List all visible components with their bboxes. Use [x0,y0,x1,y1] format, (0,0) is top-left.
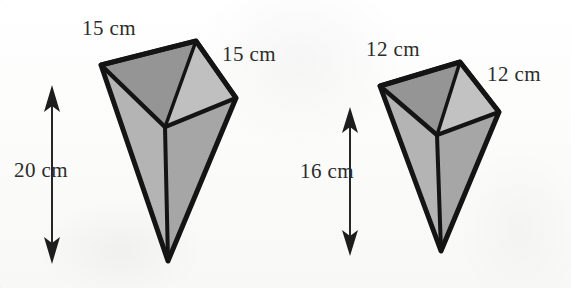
geometry-diagram [0,0,571,288]
left-prism-top-right-label: 15 cm [222,42,276,67]
left-prism [101,41,236,261]
left-prism-top-left-label: 15 cm [82,16,136,41]
right-prism-top-right-label: 12 cm [487,62,541,87]
right-prism-top-left-label: 12 cm [366,37,420,62]
figure-canvas: 15 cm 15 cm 20 cm 12 cm 12 cm 16 cm [0,0,571,288]
right-prism-height-label: 16 cm [300,159,354,184]
right-prism [380,62,499,251]
left-prism-height-label: 20 cm [14,158,68,183]
